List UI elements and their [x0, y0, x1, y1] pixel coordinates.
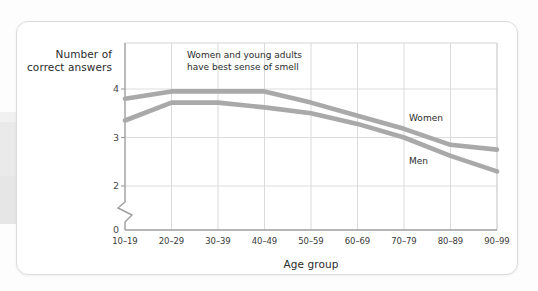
- insight-callout-line1: Women and young adults: [187, 50, 337, 62]
- y-tick-label: 3: [101, 132, 119, 143]
- x-tick-label: 90–99: [469, 236, 525, 246]
- y-tick-label: 2: [101, 180, 119, 191]
- y-tick-label: 4: [101, 83, 119, 94]
- insight-callout-line2: have best sense of smell: [187, 62, 337, 74]
- line-chart-plot: [0, 0, 538, 291]
- x-axis-title: Age group: [125, 258, 497, 270]
- y-axis-title: Number of correct answers: [18, 48, 112, 74]
- series-label-men: Men: [409, 156, 428, 166]
- y-axis-break-icon: [118, 196, 132, 230]
- series-label-women: Women: [409, 113, 443, 123]
- y-tick-label: 0: [101, 224, 119, 235]
- insight-callout: Women and young adults have best sense o…: [187, 50, 337, 73]
- screenshot-root: Number of correct answers Age group 0234…: [0, 0, 538, 291]
